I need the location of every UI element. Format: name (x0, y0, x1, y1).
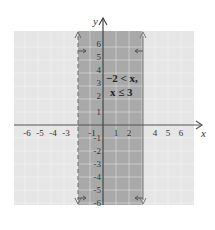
solution-band (78, 31, 143, 205)
svg-text:1: 1 (114, 128, 119, 138)
svg-text:4: 4 (97, 65, 102, 75)
svg-text:2: 2 (97, 91, 102, 101)
svg-text:6: 6 (97, 39, 102, 49)
svg-text:-5: -5 (36, 128, 44, 138)
svg-text:-3: -3 (62, 128, 70, 138)
svg-text:-2: -2 (94, 146, 102, 156)
svg-text:1: 1 (97, 107, 102, 117)
inequality-line-1: −2 < x, (106, 72, 138, 84)
svg-text:-6: -6 (23, 128, 31, 138)
svg-text:-4: -4 (49, 128, 57, 138)
x-axis-label: x (200, 127, 206, 139)
inequality-line-2: x ≤ 3 (110, 86, 133, 98)
y-axis-label: y (92, 15, 98, 27)
inequality-graph: x y -6 -5 -4 -3 -1 1 2 4 5 6 6 5 4 3 2 1… (0, 0, 215, 230)
svg-text:5: 5 (166, 128, 171, 138)
svg-text:-5: -5 (94, 185, 102, 195)
svg-text:-3: -3 (94, 159, 102, 169)
svg-text:-1: -1 (94, 133, 102, 143)
svg-text:2: 2 (127, 128, 132, 138)
svg-text:-6: -6 (94, 198, 102, 208)
svg-text:5: 5 (97, 52, 102, 62)
svg-text:4: 4 (153, 128, 158, 138)
svg-text:-4: -4 (94, 172, 102, 182)
svg-text:3: 3 (97, 78, 102, 88)
svg-text:6: 6 (179, 128, 184, 138)
